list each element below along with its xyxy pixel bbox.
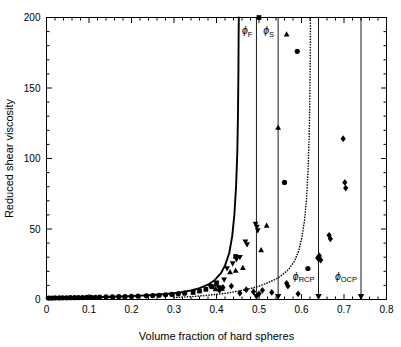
marker-circle bbox=[157, 293, 162, 298]
x-tick-label: 0.1 bbox=[82, 304, 96, 315]
marker-triangle-down bbox=[221, 278, 227, 283]
x-tick-label: 0.6 bbox=[295, 304, 309, 315]
marker-circle bbox=[163, 292, 168, 297]
label-phi-OCP: ϕOCP bbox=[335, 270, 357, 284]
y-tick-label: 0 bbox=[35, 294, 41, 305]
y-tick-label: 50 bbox=[29, 224, 41, 235]
marker-circle bbox=[110, 294, 115, 299]
marker-diamond bbox=[343, 185, 348, 192]
figure-caption-partial bbox=[8, 336, 393, 345]
y-tick-label: 150 bbox=[24, 83, 41, 94]
marker-circle bbox=[295, 49, 300, 54]
marker-circle bbox=[305, 266, 310, 271]
chart-canvas: 00.10.20.30.40.50.60.70.8050100150200Vol… bbox=[0, 0, 401, 347]
marker-diamond bbox=[296, 290, 301, 297]
x-tick-label: 0.4 bbox=[210, 304, 224, 315]
y-axis-label: Reduced shear viscosity bbox=[3, 98, 15, 218]
marker-square bbox=[197, 289, 202, 294]
marker-triangle-up bbox=[275, 124, 281, 129]
figure-hard-sphere-viscosity: 00.10.20.30.40.50.60.70.8050100150200Vol… bbox=[0, 0, 401, 347]
marker-circle bbox=[176, 291, 181, 296]
marker-square bbox=[191, 290, 196, 295]
label-phi-RCP: ϕRCP bbox=[293, 270, 315, 284]
marker-triangle-up bbox=[264, 222, 270, 227]
x-tick-label: 0.7 bbox=[337, 304, 351, 315]
marker-triangle-down bbox=[230, 261, 236, 266]
x-tick-label: 0.5 bbox=[252, 304, 266, 315]
marker-diamond bbox=[229, 283, 234, 290]
marker-circle bbox=[182, 291, 187, 296]
marker-circle bbox=[135, 294, 140, 299]
marker-triangle-up bbox=[258, 247, 264, 252]
marker-circle bbox=[97, 295, 102, 300]
marker-circle bbox=[150, 293, 155, 298]
y-tick-label: 100 bbox=[24, 153, 41, 164]
marker-circle bbox=[123, 294, 128, 299]
curve-solid-curve bbox=[47, 18, 239, 299]
marker-diamond bbox=[342, 179, 347, 186]
marker-diamond bbox=[269, 289, 274, 296]
x-tick-label: 0.8 bbox=[380, 304, 394, 315]
x-tick-label: 0.3 bbox=[167, 304, 181, 315]
marker-triangle-down bbox=[255, 228, 261, 233]
marker-triangle-up bbox=[240, 265, 246, 270]
marker-square bbox=[204, 287, 209, 292]
marker-circle bbox=[282, 180, 287, 185]
marker-triangle-down bbox=[244, 242, 250, 247]
label-phi-F: ϕF bbox=[242, 24, 253, 38]
marker-circle bbox=[169, 292, 174, 297]
x-tick-label: 0.2 bbox=[125, 304, 139, 315]
marker-diamond bbox=[244, 286, 249, 293]
y-tick-label: 200 bbox=[24, 12, 41, 23]
marker-diamond bbox=[341, 135, 346, 142]
marker-circle bbox=[144, 293, 149, 298]
marker-circle bbox=[129, 294, 134, 299]
plot-frame bbox=[47, 18, 387, 300]
marker-circle bbox=[116, 294, 121, 299]
marker-triangle-up bbox=[284, 31, 290, 36]
marker-square bbox=[257, 15, 262, 20]
x-tick-label: 0 bbox=[44, 304, 50, 315]
marker-triangle-up bbox=[233, 267, 239, 272]
marker-circle bbox=[103, 294, 108, 299]
label-phi-S: ϕS bbox=[263, 24, 274, 38]
